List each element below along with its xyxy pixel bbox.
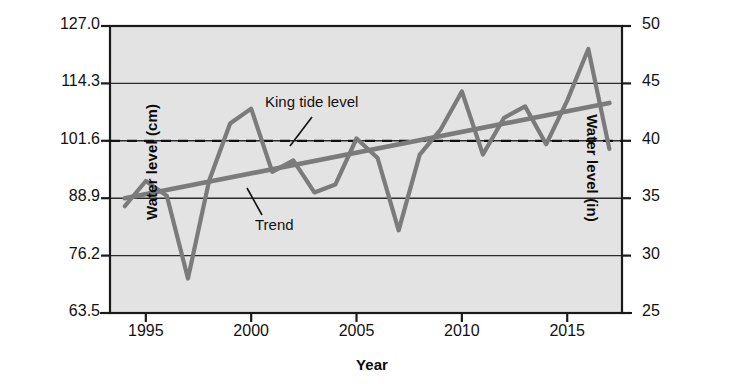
x-axis-title: Year bbox=[0, 356, 744, 373]
y-axis-right-tick-label: 35 bbox=[642, 187, 682, 205]
x-axis-tick-label: 2015 bbox=[537, 322, 597, 340]
y-axis-left-title-text: Water level (cm) bbox=[140, 12, 164, 312]
water-level-chart-figure: Water level (cm) Water level (in) Year 6… bbox=[0, 0, 744, 384]
y-axis-right-title-text: Water level (in) bbox=[580, 18, 604, 318]
x-axis-tick-label: 2010 bbox=[432, 322, 492, 340]
x-axis-tick-label: 2005 bbox=[327, 322, 387, 340]
x-axis-tick-label: 2000 bbox=[221, 322, 281, 340]
x-axis-tick-label: 1995 bbox=[116, 322, 176, 340]
y-axis-right-tick-label: 40 bbox=[642, 130, 682, 148]
y-axis-left-tick-label: 76.2 bbox=[26, 245, 100, 263]
annotation-king-tide-level: King tide level bbox=[265, 93, 358, 110]
y-axis-right-tick-label: 30 bbox=[642, 245, 682, 263]
y-axis-left-tick-label: 127.0 bbox=[26, 15, 100, 33]
y-axis-left-tick-label: 63.5 bbox=[26, 302, 100, 320]
y-axis-right-tick-label: 25 bbox=[642, 302, 682, 320]
y-axis-left-title: Water level (cm) bbox=[140, 12, 164, 312]
y-axis-right-title: Water level (in) bbox=[580, 18, 604, 318]
y-axis-left-tick-label: 88.9 bbox=[26, 187, 100, 205]
y-axis-left-tick-label: 101.6 bbox=[26, 130, 100, 148]
y-axis-left-tick-label: 114.3 bbox=[26, 72, 100, 90]
y-axis-right-tick-label: 45 bbox=[642, 72, 682, 90]
y-axis-right-tick-label: 50 bbox=[642, 15, 682, 33]
annotation-trend: Trend bbox=[255, 216, 294, 233]
